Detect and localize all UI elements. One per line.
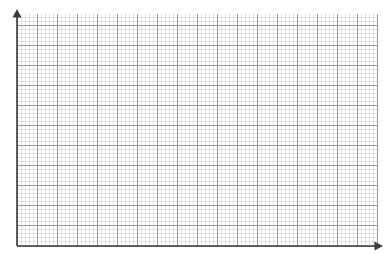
graph-paper-canvas bbox=[0, 0, 392, 254]
coordinate-plane-svg bbox=[0, 0, 392, 254]
plot-background bbox=[0, 0, 392, 254]
